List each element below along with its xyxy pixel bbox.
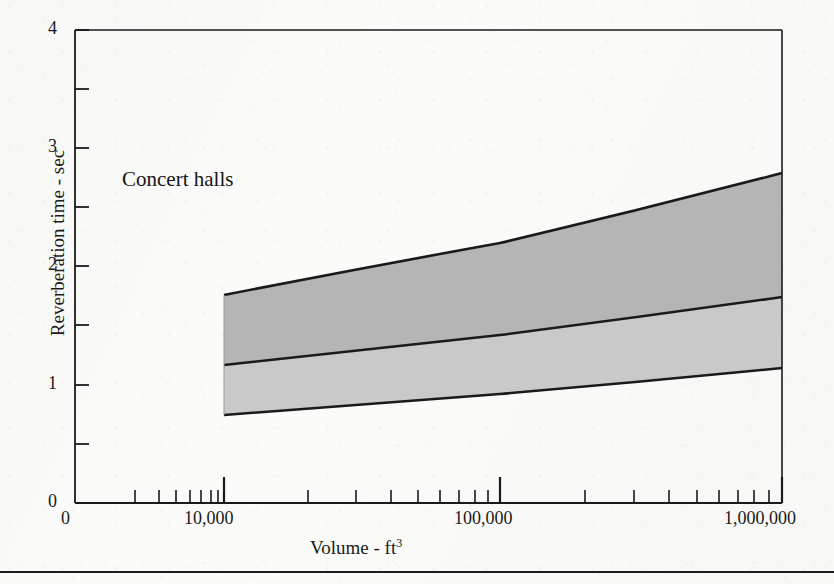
figure-page: 4 3 2 1 0 0 10,000 100,000 1,000,000 Rev… (0, 0, 834, 584)
x-tick-label-100000: 100,000 (454, 508, 513, 529)
x-axis-title-text: Volume - ft (310, 537, 396, 558)
x-axis-title-superscript: 3 (396, 536, 402, 550)
x-tick-label-origin: 0 (61, 508, 70, 529)
x-tick-label-10000: 10,000 (184, 508, 234, 529)
y-axis-title: Reverberation time - sec (47, 113, 69, 373)
y-tick-label-1: 1 (48, 373, 57, 394)
x-axis-ticks (135, 477, 782, 503)
chart-annotation-concert-halls: Concert halls (122, 167, 233, 192)
x-axis-title: Volume - ft3 (310, 536, 402, 559)
page-bottom-rule (0, 571, 834, 573)
reverberation-time-chart (0, 0, 834, 584)
plot-bands (224, 173, 782, 415)
x-tick-label-1000000: 1,000,000 (724, 508, 796, 529)
y-tick-label-0: 0 (48, 491, 57, 512)
y-axis-ticks (75, 30, 89, 444)
y-tick-label-4: 4 (48, 18, 57, 39)
